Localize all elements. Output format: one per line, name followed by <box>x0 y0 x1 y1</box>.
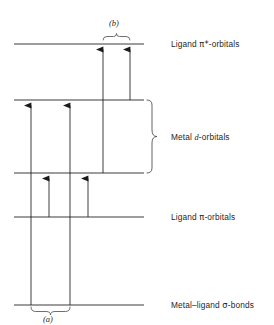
level-label-metal-d-orbitals-prefix: Metal <box>171 132 195 142</box>
level-label-metal-d-orbitals: Metal d-orbitals <box>171 133 230 142</box>
level-label-metal-ligand-sigma-prefix: Metal–ligand <box>171 300 222 310</box>
transition-arrows <box>31 50 130 306</box>
level-label-ligand-pi-prefix: Ligand <box>171 212 199 222</box>
level-lines <box>14 44 144 305</box>
group-label-a: (a) <box>43 315 53 324</box>
level-label-ligand-pi-suffix: -orbitals <box>204 212 235 222</box>
pi-star-symbol: π* <box>199 39 208 49</box>
level-label-ligand-pi-star-prefix: Ligand <box>171 39 199 49</box>
level-label-metal-ligand-sigma: Metal–ligand σ-bonds <box>171 301 254 309</box>
energy-level-diagram: Ligand π*-orbitals Ligand π-orbitals Met… <box>0 0 274 325</box>
level-label-ligand-pi-star: Ligand π*-orbitals <box>171 40 240 48</box>
level-label-metal-d-orbitals-suffix: -orbitals <box>199 132 230 142</box>
level-label-metal-ligand-sigma-suffix: -bonds <box>228 300 254 310</box>
group-brace-b <box>103 34 130 41</box>
group-label-b: (b) <box>109 19 119 28</box>
level-label-ligand-pi-star-suffix: -orbitals <box>209 39 240 49</box>
level-label-ligand-pi: Ligand π-orbitals <box>171 213 235 221</box>
metal-d-orbitals-brace <box>147 100 157 173</box>
